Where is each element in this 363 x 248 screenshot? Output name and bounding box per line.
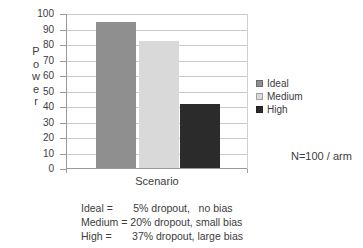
y-tick-label-20: 20 — [14, 132, 54, 144]
y-tick-mark-60 — [60, 76, 66, 77]
y-tick-mark-100 — [60, 14, 66, 15]
y-tick-label-30: 30 — [14, 117, 54, 129]
legend-item-ideal: Ideal — [256, 77, 303, 90]
y-tick-mark-10 — [60, 154, 66, 155]
legend: IdealMediumHigh — [256, 77, 303, 116]
y-tick-label-100: 100 — [14, 8, 54, 20]
gridline-90 — [67, 30, 247, 31]
y-tick-label-50: 50 — [14, 86, 54, 98]
footnotes: Ideal = 5% dropout, no biasMedium = 20% … — [81, 201, 243, 243]
legend-label: High — [267, 104, 288, 115]
bar-high — [180, 104, 220, 168]
y-tick-label-90: 90 — [14, 24, 54, 36]
y-tick-mark-80 — [60, 45, 66, 46]
legend-marker-medium — [256, 93, 263, 100]
x-tick-mark-1 — [247, 169, 248, 173]
footnote-line-0: Ideal = 5% dropout, no bias — [81, 201, 243, 215]
legend-label: Ideal — [267, 78, 289, 89]
power-bar-chart: Power Scenario IdealMediumHigh N=100 / a… — [0, 0, 363, 248]
gridline-100 — [67, 14, 247, 15]
legend-marker-high — [256, 106, 263, 113]
legend-item-high: High — [256, 103, 303, 116]
y-tick-label-70: 70 — [14, 55, 54, 67]
footnote-line-1: Medium = 20% dropout, small bias — [81, 215, 243, 229]
footnote-line-2: High = 37% dropout, large bias — [81, 229, 243, 243]
y-tick-mark-30 — [60, 123, 66, 124]
y-tick-label-80: 80 — [14, 39, 54, 51]
y-tick-mark-90 — [60, 30, 66, 31]
y-tick-mark-70 — [60, 61, 66, 62]
bar-ideal — [96, 22, 136, 168]
x-axis-label: Scenario — [66, 175, 248, 187]
legend-item-medium: Medium — [256, 90, 303, 103]
y-tick-label-0: 0 — [14, 163, 54, 175]
y-tick-mark-50 — [60, 92, 66, 93]
bar-medium — [139, 41, 179, 168]
x-axis-line — [67, 168, 247, 169]
legend-marker-ideal — [256, 80, 263, 87]
legend-label: Medium — [267, 91, 303, 102]
y-tick-label-60: 60 — [14, 70, 54, 82]
sample-size-note: N=100 / arm — [291, 150, 352, 162]
plot-area — [66, 14, 248, 169]
y-tick-mark-40 — [60, 107, 66, 108]
y-tick-label-40: 40 — [14, 101, 54, 113]
y-tick-label-10: 10 — [14, 148, 54, 160]
x-tick-mark-0 — [66, 169, 67, 173]
y-tick-mark-20 — [60, 138, 66, 139]
